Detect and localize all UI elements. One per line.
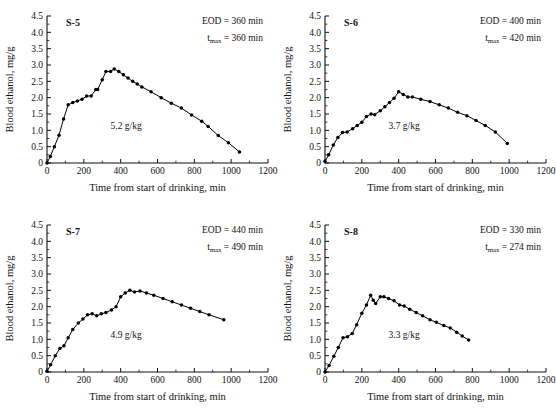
x-tick-label: 400 — [114, 375, 129, 385]
data-point — [227, 141, 231, 145]
x-axis-title: Time from start of drinking, min — [367, 391, 504, 402]
data-point — [180, 303, 184, 307]
panel-subject-label: S-6 — [344, 17, 358, 28]
data-point — [66, 103, 70, 107]
y-tick-label: 1.0 — [31, 126, 43, 136]
x-tick-label: 0 — [45, 375, 50, 385]
y-axis-title: Blood ethanol, mg/g — [4, 46, 15, 133]
y-tick-label: 2.0 — [309, 302, 321, 312]
data-point — [58, 347, 62, 351]
data-point — [200, 119, 204, 123]
data-point — [336, 136, 340, 140]
y-tick-label: 2.0 — [309, 93, 321, 103]
data-point — [86, 313, 90, 317]
data-point — [49, 363, 53, 367]
data-point — [161, 297, 165, 301]
x-tick-label: 800 — [187, 166, 202, 176]
y-tick-label: 0 — [316, 367, 321, 377]
y-tick-label: 3.5 — [31, 44, 43, 54]
x-tick-label: 1000 — [500, 166, 519, 176]
x-tick-label: 800 — [465, 375, 480, 385]
data-point — [323, 370, 327, 374]
y-tick-label: 3.5 — [31, 253, 43, 263]
y-tick-label: 0.5 — [31, 142, 43, 152]
data-point — [379, 295, 383, 299]
y-axis-ticks: 00.51.01.52.02.53.03.54.04.5 — [309, 220, 329, 377]
data-point — [435, 321, 439, 325]
y-tick-label: 4.0 — [31, 237, 43, 247]
data-point — [104, 311, 108, 315]
y-tick-label: 0 — [38, 367, 43, 377]
y-tick-label: 4.0 — [309, 28, 321, 38]
x-tick-label: 600 — [150, 166, 165, 176]
data-point — [372, 298, 376, 302]
x-axis-title: Time from start of drinking, min — [89, 391, 226, 402]
x-tick-label: 1000 — [500, 375, 519, 385]
data-point — [45, 161, 49, 165]
x-tick-label: 200 — [77, 166, 92, 176]
y-tick-label: 1.0 — [309, 335, 321, 345]
x-tick-label: 1000 — [222, 166, 241, 176]
series-s-5 — [45, 67, 241, 165]
tmax-annotation: tmax = 490 min — [207, 242, 263, 253]
data-point — [122, 73, 126, 77]
y-axis-ticks: 00.51.01.52.02.53.03.54.04.5 — [31, 11, 51, 168]
data-point — [89, 94, 93, 98]
y-tick-label: 3.5 — [309, 253, 321, 263]
dose-annotation: 3.7 g/kg — [389, 121, 420, 131]
tmax-annotation: tmax = 420 min — [485, 33, 541, 44]
data-point — [332, 143, 336, 147]
y-tick-label: 4.5 — [309, 220, 321, 230]
x-axis-ticks: 020040060080010001200 — [45, 368, 278, 385]
series-line — [47, 69, 239, 163]
data-point — [133, 290, 137, 294]
x-tick-label: 1200 — [537, 166, 556, 176]
x-tick-label: 0 — [323, 166, 328, 176]
x-axis-ticks: 020040060080010001200 — [323, 159, 556, 176]
y-tick-label: 4.0 — [309, 237, 321, 247]
y-tick-label: 0.5 — [31, 351, 43, 361]
data-point — [421, 314, 425, 318]
data-point — [170, 300, 174, 304]
x-tick-label: 400 — [392, 375, 407, 385]
y-tick-label: 1.5 — [309, 318, 321, 328]
data-point — [327, 364, 331, 368]
data-point — [124, 291, 128, 295]
y-tick-label: 4.0 — [31, 28, 43, 38]
x-tick-label: 1200 — [537, 375, 556, 385]
data-point — [397, 90, 401, 94]
data-point — [159, 96, 163, 100]
data-point — [494, 130, 498, 134]
data-point — [373, 113, 377, 117]
data-point — [455, 330, 459, 334]
data-point — [408, 308, 412, 312]
data-point — [109, 70, 113, 74]
data-point — [80, 98, 84, 102]
x-tick-label: 800 — [465, 166, 480, 176]
data-point — [110, 308, 114, 312]
data-point — [45, 370, 49, 374]
data-point — [128, 289, 132, 293]
x-tick-label: 800 — [187, 375, 202, 385]
y-tick-label: 1.5 — [31, 109, 43, 119]
y-axis-title: Blood ethanol, mg/g — [282, 255, 293, 342]
data-point — [365, 303, 369, 307]
data-point — [387, 297, 391, 301]
y-tick-label: 3.0 — [31, 269, 43, 279]
data-point — [180, 106, 184, 110]
data-point — [54, 354, 58, 358]
data-point — [341, 336, 345, 340]
eod-annotation: EOD = 330 min — [480, 225, 541, 235]
data-point — [95, 314, 99, 318]
panel-subject-label: S-7 — [66, 226, 80, 237]
x-axis-title: Time from start of drinking, min — [89, 182, 226, 193]
data-point — [346, 335, 350, 339]
data-point — [448, 326, 452, 330]
dose-annotation: 5.2 g/kg — [111, 121, 142, 131]
data-point — [392, 299, 396, 303]
x-tick-label: 0 — [323, 375, 328, 385]
eod-annotation: EOD = 440 min — [202, 225, 263, 235]
data-point — [207, 313, 211, 317]
data-point — [119, 295, 123, 299]
panel-subject-label: S-5 — [66, 17, 80, 28]
